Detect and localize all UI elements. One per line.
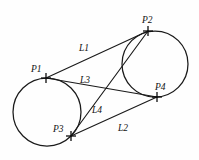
point-label-p2: P2	[141, 15, 153, 25]
point-marker-p4	[152, 92, 162, 102]
segment-l1	[46, 31, 148, 78]
point-label-p3: P3	[52, 124, 64, 134]
segment-label-l2: L2	[117, 123, 128, 133]
geometry-figure: P1 P2 P3 P4 L1 L3 L4 L2	[0, 0, 199, 160]
point-label-p1: P1	[30, 64, 42, 74]
segment-label-l1: L1	[78, 43, 89, 53]
figure-canvas: P1 P2 P3 P4 L1 L3 L4 L2	[0, 0, 199, 160]
point-label-p4: P4	[154, 82, 166, 92]
point-marker-p1	[41, 73, 51, 83]
segment-label-l3: L3	[79, 75, 90, 85]
point-marker-p2	[143, 26, 153, 36]
segment-label-l4: L4	[91, 105, 102, 115]
segment-l2	[71, 97, 157, 136]
